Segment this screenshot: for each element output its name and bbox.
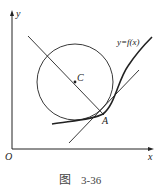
caption-number: 3-36 (81, 174, 102, 186)
function-curve (52, 37, 152, 124)
caption-prefix: 图 (59, 173, 71, 187)
center-point (74, 81, 77, 84)
origin-label: O (5, 151, 12, 162)
x-axis-label: x (147, 151, 153, 162)
figure-diagram: y x O C A y=f(x) 图 3-36 (0, 0, 155, 193)
y-axis-label: y (15, 8, 21, 19)
center-label: C (77, 72, 84, 83)
curve-label: y=f(x) (116, 37, 140, 47)
y-axis-arrow-icon (10, 10, 14, 16)
point-a-label: A (101, 115, 109, 126)
